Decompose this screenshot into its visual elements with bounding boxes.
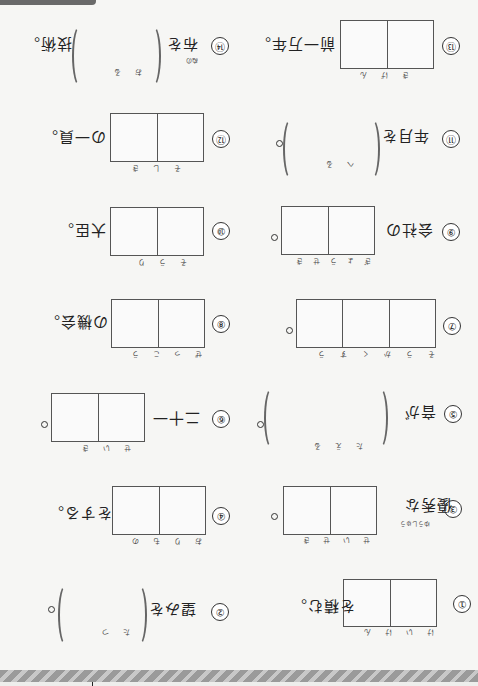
footer-tick	[92, 682, 93, 686]
period-7	[286, 327, 293, 334]
reading-5: たえる	[300, 442, 363, 452]
reading-3: せいせき	[290, 536, 370, 546]
problem-number-5: ⑤	[444, 405, 462, 423]
paren-right-14	[145, 25, 161, 87]
problem-number-12: ⑫	[212, 130, 230, 148]
problem-text-14-after: 技術。	[24, 36, 72, 51]
period-11	[276, 140, 283, 147]
period-6	[41, 421, 48, 428]
reading-1: けいけん	[350, 628, 434, 638]
answer-boxes-10[interactable]	[110, 207, 204, 256]
problem-number-8: ⑧	[212, 315, 230, 333]
problem-text-1: を積む。	[291, 598, 355, 613]
reading-11: へる	[312, 160, 354, 170]
period-3	[271, 513, 278, 520]
paren-left-14[interactable]	[72, 25, 88, 87]
problem-number-13: ⑬	[442, 37, 460, 55]
answer-boxes-3[interactable]	[283, 486, 377, 535]
paren-right-2	[131, 584, 147, 646]
paren-left-5[interactable]	[264, 387, 280, 449]
period-5	[257, 421, 264, 428]
problem-number-11: ⑪	[442, 130, 460, 148]
paren-left-11[interactable]	[283, 118, 299, 180]
problem-number-6: ⑥	[212, 410, 230, 428]
problem-text-5: 音が	[404, 404, 436, 419]
problem-number-10: ⑩	[212, 222, 230, 240]
problem-text-9: 会社の	[385, 222, 433, 237]
reading-4: おりもの	[118, 537, 202, 547]
reading-14: おる	[100, 68, 142, 78]
reading-10: そうり	[124, 258, 187, 268]
answer-boxes-12[interactable]	[110, 113, 204, 162]
problem-number-14: ⑭	[211, 37, 229, 55]
problem-text-6: 二十一	[152, 410, 200, 425]
answer-boxes-13[interactable]	[340, 20, 434, 69]
ruby-3: ゆうしゅう	[400, 520, 430, 529]
paren-right-11	[364, 118, 380, 180]
period-2	[48, 606, 55, 613]
problem-number-1: ①	[453, 595, 471, 613]
answer-boxes-4[interactable]	[112, 486, 206, 535]
reading-7: そうかくすう	[303, 350, 435, 360]
problem-number-7: ⑦	[443, 317, 461, 335]
problem-number-9: ⑨	[442, 223, 460, 241]
problem-number-2: ②	[211, 603, 229, 621]
ruby-14: ぬの	[186, 57, 198, 66]
header-tab	[0, 0, 96, 5]
reading-6: せいき	[68, 444, 131, 454]
problem-number-4: ④	[212, 507, 230, 525]
problem-text-12: の一員。	[42, 129, 106, 144]
problem-text-13: 前一万年。	[255, 36, 335, 51]
answer-boxes-8[interactable]	[111, 299, 205, 348]
problem-text-14: 布を	[166, 36, 198, 51]
problem-text-2: 望みを	[148, 601, 196, 616]
worksheet-page: ① を積む。 けいけん ③ 優秀な ゆうしゅう せいせき ⑤ 音が たえる ⑦ …	[0, 0, 478, 686]
problem-text-8: の機会。	[44, 314, 108, 329]
period-9	[271, 234, 278, 241]
answer-boxes-7[interactable]	[296, 299, 436, 348]
reading-12: そしき	[118, 164, 181, 174]
footer-base	[0, 682, 478, 686]
reading-9: ぎょうせき	[286, 257, 371, 267]
answer-boxes-1[interactable]	[343, 579, 437, 627]
answer-boxes-6[interactable]	[51, 393, 145, 442]
footer-stripe	[0, 670, 478, 682]
problem-text-11: 年月を	[381, 128, 429, 143]
reading-13: きげん	[346, 71, 409, 81]
reading-2: たつ	[88, 628, 130, 638]
problem-text-4: をする。	[48, 505, 112, 520]
paren-right-5	[372, 387, 388, 449]
answer-boxes-9[interactable]	[281, 206, 375, 255]
paren-left-2[interactable]	[58, 584, 74, 646]
problem-text-10: 大臣。	[58, 222, 106, 237]
reading-8: ぜっこう	[118, 350, 202, 360]
problem-text-3: 優秀な	[404, 497, 452, 512]
